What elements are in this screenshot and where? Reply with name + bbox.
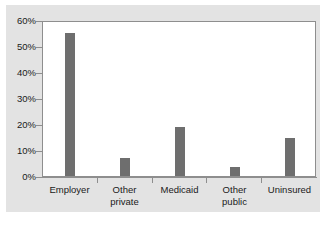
x-axis-category-label-line: Other xyxy=(113,184,137,195)
x-axis-category-label-line: Uninsured xyxy=(268,184,311,195)
y-axis-tick-label: 20% xyxy=(2,120,36,130)
bar xyxy=(230,167,240,176)
bar xyxy=(285,138,295,176)
x-axis-category-label: Medicaid xyxy=(152,184,207,212)
x-axis-category-label-line: Medicaid xyxy=(160,184,198,195)
bar xyxy=(65,33,75,176)
bar xyxy=(120,158,130,176)
x-axis-category-label: Employer xyxy=(42,184,97,212)
x-axis-tick-mark xyxy=(152,178,153,183)
y-axis-tick-label: 0% xyxy=(2,172,36,182)
x-axis-category-label: Otherprivate xyxy=(97,184,152,212)
y-axis-tick-label: 10% xyxy=(2,146,36,156)
y-axis-tick-label: 30% xyxy=(2,94,36,104)
x-axis-tick-mark xyxy=(261,178,262,183)
y-axis-tick-label: 60% xyxy=(2,16,36,26)
x-axis-category-label-line: public xyxy=(207,196,262,208)
bar xyxy=(175,127,185,176)
y-axis-tick-labels: 0%10%20%30%40%50%60% xyxy=(0,0,36,225)
y-axis-tick-label: 40% xyxy=(2,68,36,78)
x-axis-category-label-line: Other xyxy=(223,184,247,195)
x-axis-line xyxy=(42,177,317,178)
plot-area xyxy=(42,21,316,177)
x-axis-category-label-line: Employer xyxy=(49,184,89,195)
chart-figure: 0%10%20%30%40%50%60% EmployerOtherprivat… xyxy=(0,0,326,225)
x-axis-tick-mark xyxy=(206,178,207,183)
y-axis-tick-label: 50% xyxy=(2,42,36,52)
x-axis-category-label: Uninsured xyxy=(262,184,317,212)
x-axis-tick-mark xyxy=(97,178,98,183)
x-axis-category-label: Otherpublic xyxy=(207,184,262,212)
x-axis-category-label-line: private xyxy=(97,196,152,208)
x-axis-category-labels: EmployerOtherprivateMedicaidOtherpublicU… xyxy=(42,184,317,212)
